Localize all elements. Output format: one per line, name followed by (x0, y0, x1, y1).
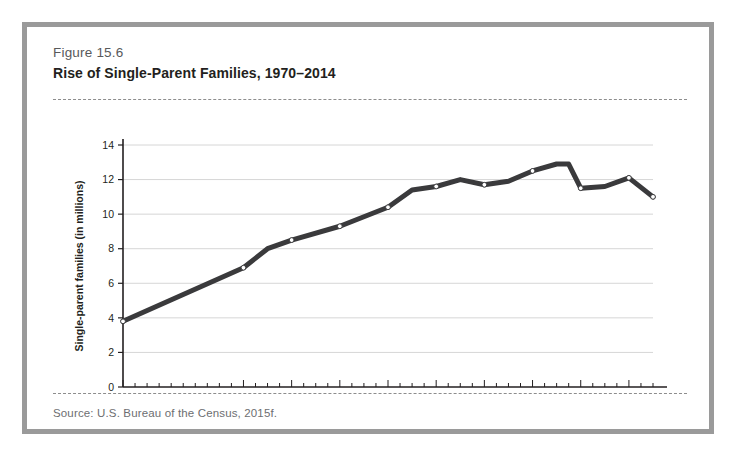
y-axis-tick-label: 14 (102, 139, 114, 151)
divider-bottom (53, 393, 687, 394)
y-axis-tick-label: 4 (108, 312, 114, 324)
figure-header: Figure 15.6 Rise of Single-Parent Famili… (53, 43, 673, 84)
figure-number: Figure 15.6 (53, 43, 673, 63)
y-axis-title: Single-parent families (in millions) (73, 181, 85, 352)
data-point-marker (530, 169, 535, 174)
x-axis-tick-label: 2008 (569, 390, 593, 391)
data-point-marker (578, 186, 583, 191)
y-axis-tick-label: 12 (102, 173, 114, 185)
x-axis-tick-label: 2000 (473, 390, 497, 391)
y-axis-tick-label: 2 (108, 346, 114, 358)
x-axis-tick-label: 1992 (376, 390, 400, 391)
y-axis-tick-label: 6 (108, 277, 114, 289)
chart-svg: 02468101214 1970198019841988199219962000… (27, 101, 709, 391)
x-axis-tick-label: 1980 (232, 390, 256, 391)
y-axis: 02468101214 (102, 139, 123, 391)
data-point-marker (386, 205, 391, 210)
x-axis: 1970198019841988199219962000200420082012 (111, 380, 667, 391)
x-axis-tick-label: 1996 (425, 390, 449, 391)
x-axis-tick-label: 1984 (280, 390, 304, 391)
data-point-marker (241, 265, 246, 270)
data-point-marker (627, 175, 632, 180)
source-note: Source: U.S. Bureau of the Census, 2015f… (53, 407, 277, 419)
y-axis-tick-label: 8 (108, 242, 114, 254)
figure-frame: Figure 15.6 Rise of Single-Parent Famili… (22, 22, 714, 434)
data-point-marker (434, 184, 439, 189)
x-axis-tick-label: 2004 (521, 390, 545, 391)
data-point-marker (651, 194, 656, 199)
x-axis-tick-label: 2012 (617, 390, 641, 391)
divider-top (53, 99, 687, 100)
data-point-marker (337, 224, 342, 229)
x-axis-tick-label: 1988 (328, 390, 352, 391)
y-axis-tick-label: 10 (102, 208, 114, 220)
x-axis-tick-label: 1970 (111, 390, 135, 391)
data-point-marker (121, 319, 126, 324)
line-chart: 02468101214 1970198019841988199219962000… (27, 101, 709, 391)
data-point-marker (289, 238, 294, 243)
data-point-marker (482, 182, 487, 187)
series-line (123, 164, 653, 321)
data-series (123, 164, 653, 321)
data-markers (121, 169, 656, 324)
figure-title: Rise of Single-Parent Families, 1970–201… (53, 63, 673, 84)
